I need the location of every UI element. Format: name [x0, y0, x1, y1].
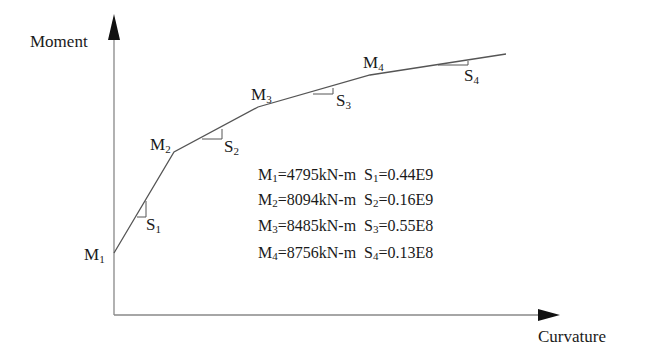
- x-axis-label: Curvature: [538, 327, 606, 346]
- legend-row-3: M3=8485kN-mS3=0.55E8: [258, 217, 433, 235]
- point-label-m1: M1: [84, 245, 105, 265]
- y-axis-arrowhead: [108, 14, 120, 40]
- slope-label-s2: S2: [224, 137, 239, 157]
- point-label-m2: M2: [150, 135, 171, 155]
- x-axis-arrowhead: [538, 309, 560, 321]
- legend-row-4: M4=8756kN-mS4=0.13E8: [258, 244, 433, 262]
- moment-curvature-diagram: Moment Curvature M1 M2 M3 M4 S1 S2 S3 S4…: [0, 0, 651, 360]
- point-label-m3: M3: [251, 85, 272, 105]
- y-axis-label: Moment: [30, 32, 88, 51]
- legend-row-2: M2=8094kN-mS2=0.16E9: [258, 191, 433, 209]
- slope-label-s4: S4: [464, 66, 479, 86]
- values-legend: M1=4795kN-mS1=0.44E9 M2=8094kN-mS2=0.16E…: [258, 166, 433, 262]
- slope-label-s1: S1: [146, 215, 161, 235]
- legend-row-1: M1=4795kN-mS1=0.44E9: [258, 166, 433, 184]
- slope-triangle-s2: [202, 129, 222, 139]
- slope-label-s3: S3: [336, 91, 351, 111]
- slope-triangle-s1: [137, 201, 146, 217]
- point-label-m4: M4: [363, 53, 384, 73]
